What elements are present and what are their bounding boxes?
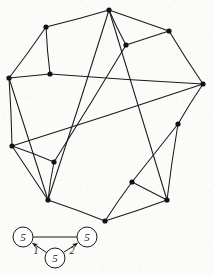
graph-edge <box>12 146 48 200</box>
graph-vertex <box>43 24 48 29</box>
graph-vertex <box>102 218 107 223</box>
graph-edge <box>132 182 167 200</box>
inset-node: 5 <box>45 248 65 268</box>
graph-edge <box>105 200 167 221</box>
inset-node: 5 <box>77 227 97 247</box>
graph-edge <box>12 146 54 162</box>
graph-edge <box>169 31 203 84</box>
graph-vertex <box>164 197 169 202</box>
graph-edge <box>9 74 50 78</box>
inset-node-label: 5 <box>84 231 90 243</box>
graph-edge <box>46 10 109 27</box>
graph-vertex <box>45 197 50 202</box>
graph-edge <box>9 27 46 78</box>
graph-edge <box>9 78 48 200</box>
graph-edge <box>46 27 50 74</box>
graph-vertex <box>6 75 11 80</box>
graph-edge <box>48 10 109 200</box>
graph-edge <box>50 74 203 84</box>
graph-vertex <box>47 71 52 76</box>
graph-edge <box>178 84 203 124</box>
graph-edge <box>48 200 105 221</box>
graph-vertex <box>51 159 56 164</box>
graph-edge <box>132 124 178 182</box>
graph-edge <box>9 78 12 146</box>
graph-figure-svg: 555 12 <box>0 0 214 276</box>
figure-canvas: 555 12 <box>0 0 214 276</box>
inset-edge-label: 2 <box>70 245 75 256</box>
graph-vertex <box>106 7 111 12</box>
graph-edge <box>126 31 169 45</box>
graph-vertex <box>123 42 128 47</box>
graph-vertex <box>129 179 134 184</box>
inset-node: 5 <box>13 227 33 247</box>
graph-edge <box>109 10 169 31</box>
graph-edge <box>105 182 132 221</box>
graph-edge <box>48 162 54 200</box>
main-graph-edges <box>9 10 203 221</box>
graph-edge <box>54 45 126 162</box>
graph-vertex <box>9 143 14 148</box>
inset-node-label: 5 <box>20 231 26 243</box>
inset-edge-label: 1 <box>34 245 39 256</box>
graph-edge <box>12 84 203 146</box>
graph-vertex <box>200 81 205 86</box>
inset-graph-nodes: 555 <box>13 227 97 268</box>
graph-vertex <box>166 28 171 33</box>
graph-vertex <box>175 121 180 126</box>
inset-node-label: 5 <box>52 252 58 264</box>
